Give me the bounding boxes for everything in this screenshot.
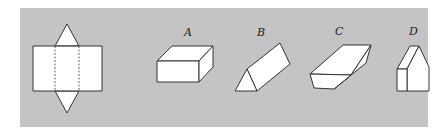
option-d-label: D <box>408 25 418 38</box>
option-c-label: C <box>335 25 344 38</box>
option-d-end-face <box>397 69 407 91</box>
net-rectangle <box>33 46 102 91</box>
option-a-label: A <box>183 26 192 39</box>
option-b-label: B <box>256 26 265 39</box>
prism-net-diagram: A B C D <box>0 0 435 131</box>
option-a-front-face <box>157 61 199 82</box>
